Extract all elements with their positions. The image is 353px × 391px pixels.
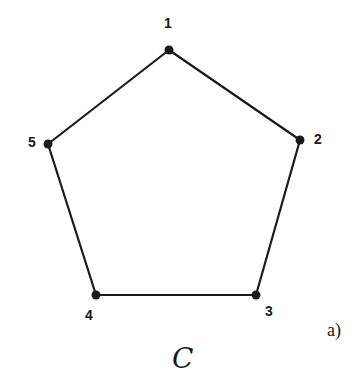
vertex-label-4: 4 — [85, 307, 93, 323]
panel-label: a) — [327, 320, 341, 341]
pentagon-graph-figure: 12345 a) C — [0, 0, 353, 391]
vertex-3 — [252, 291, 261, 300]
vertex-4 — [92, 291, 101, 300]
vertex-label-5: 5 — [28, 134, 36, 150]
vertex-2 — [296, 136, 305, 145]
graph-svg: 12345 a) C — [0, 0, 353, 391]
edge-1-2 — [169, 50, 300, 140]
vertex-label-3: 3 — [265, 303, 273, 319]
vertex-label-1: 1 — [164, 15, 172, 31]
graph-name: C — [172, 342, 193, 375]
edge-2-3 — [256, 140, 300, 295]
vertex-label-2: 2 — [314, 131, 322, 147]
vertex-labels: 12345 — [28, 15, 322, 323]
edge-4-5 — [48, 144, 96, 295]
graph-edges — [48, 50, 300, 295]
edge-5-1 — [48, 50, 169, 144]
vertex-5 — [44, 140, 53, 149]
vertex-1 — [165, 46, 174, 55]
